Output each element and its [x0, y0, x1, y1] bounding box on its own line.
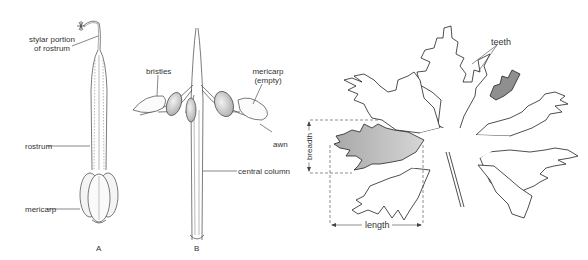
- label-rostrum: rostrum: [25, 142, 52, 151]
- panel-letter-a: A: [96, 244, 101, 253]
- label-mericarp-empty-line1: mericarp: [250, 67, 286, 76]
- stigma-icon: [77, 21, 85, 31]
- label-stylar-portion: stylar portion of rostrum: [27, 35, 77, 53]
- label-length: length: [364, 221, 391, 230]
- botanical-figure: stylar portion of rostrum rostrum merica…: [0, 0, 588, 260]
- label-bristles: bristles: [146, 67, 171, 76]
- label-breadth: breadth: [305, 131, 314, 163]
- label-mericarp-empty: mericarp (empty): [250, 67, 286, 85]
- label-stylar-line2: of rostrum: [27, 44, 77, 53]
- leaf-drawing: [334, 26, 578, 220]
- label-stylar-line1: stylar portion: [27, 35, 77, 44]
- panel-letter-b: B: [194, 244, 199, 253]
- label-mericarp-empty-line2: (empty): [250, 76, 286, 85]
- label-awn: awn: [273, 140, 288, 149]
- label-central-column: central column: [238, 167, 290, 176]
- label-mericarp-a: mericarp: [25, 205, 56, 214]
- label-teeth: teeth: [491, 38, 511, 47]
- panel-b-drawing: [133, 28, 272, 240]
